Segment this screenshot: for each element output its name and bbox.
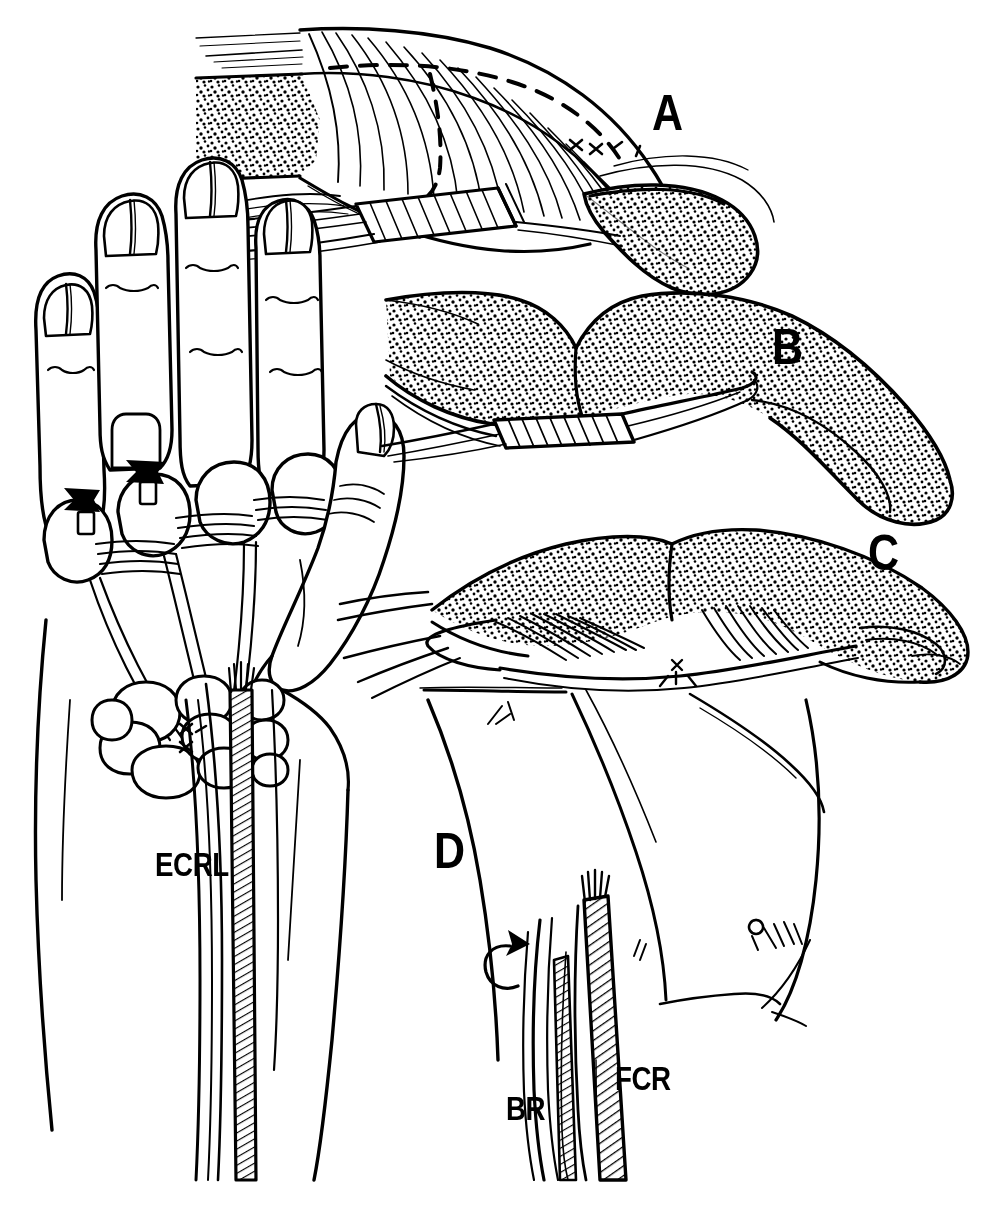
- figure-illustration: [0, 0, 989, 1208]
- label-fcr: FCR: [615, 1062, 671, 1095]
- finger-ring: [96, 194, 172, 470]
- panel-letter-a: A: [652, 88, 682, 138]
- panel-b-tendon-strip: [494, 414, 634, 448]
- panel-letter-b: B: [772, 322, 802, 372]
- finger-index: [256, 200, 324, 494]
- label-br: BR: [506, 1092, 545, 1125]
- panel-letter-c: C: [868, 528, 898, 578]
- panel-letter-d: D: [434, 826, 464, 876]
- finger-middle: [176, 158, 252, 486]
- label-ecrl: ECRL: [155, 848, 229, 881]
- figure-page: A B C D ECRL BR FCR: [0, 0, 989, 1208]
